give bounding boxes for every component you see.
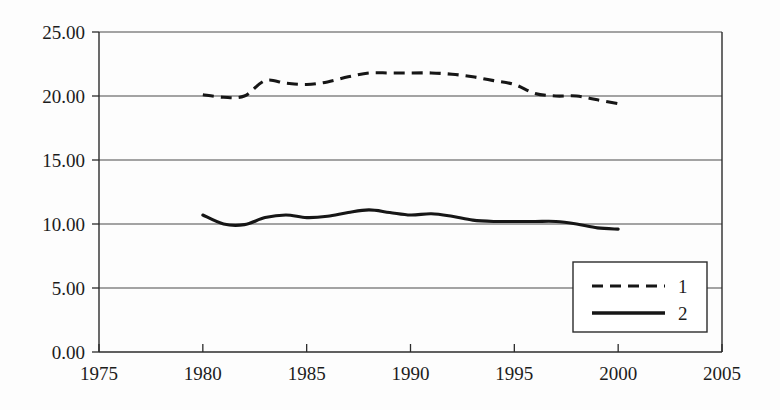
y-tick-label-5: 5.00 (52, 278, 85, 299)
x-tick-label-2000: 2000 (599, 363, 637, 384)
y-tick-label-10: 10.00 (42, 214, 85, 235)
x-tick-label-1990: 1990 (392, 363, 430, 384)
y-tick-label-15: 15.00 (42, 150, 85, 171)
x-tick-label-2005: 2005 (703, 363, 741, 384)
legend: 1 2 (573, 262, 707, 332)
legend-label-2: 2 (678, 303, 688, 324)
chart-canvas: 0.005.0010.0015.0020.0025.00 19751980198… (0, 0, 780, 410)
chart-background (0, 0, 780, 410)
x-tick-label-1985: 1985 (288, 363, 326, 384)
x-tick-label-1995: 1995 (495, 363, 533, 384)
x-tick-label-1975: 1975 (80, 363, 118, 384)
y-tick-label-25: 25.00 (42, 22, 85, 43)
y-tick-label-0: 0.00 (52, 342, 85, 363)
line-chart: 0.005.0010.0015.0020.0025.00 19751980198… (0, 0, 780, 410)
x-tick-label-1980: 1980 (184, 363, 222, 384)
legend-label-1: 1 (678, 276, 688, 297)
y-tick-label-20: 20.00 (42, 86, 85, 107)
